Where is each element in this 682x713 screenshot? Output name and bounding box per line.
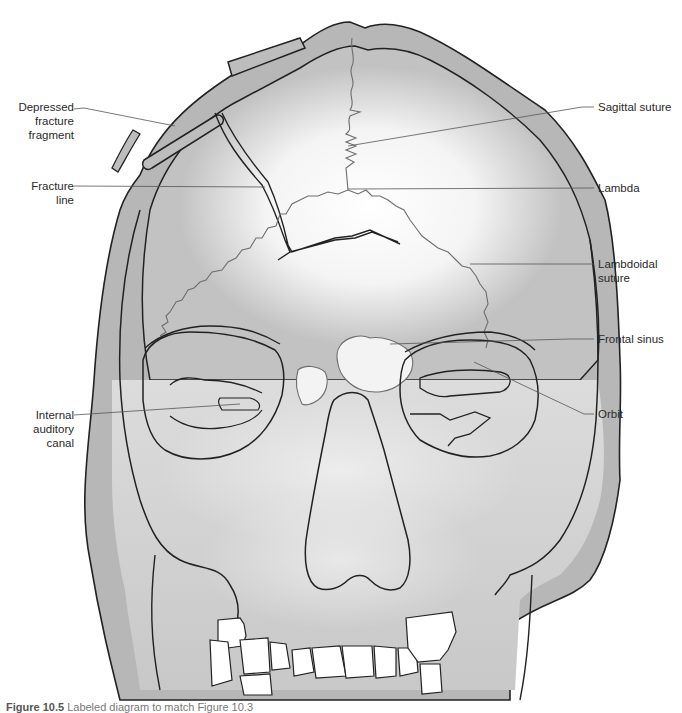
label-fracture-line: Fracture line: [4, 179, 74, 207]
caption-text: Labeled diagram to match Figure 10.3: [67, 701, 253, 713]
label-frontal-sinus: Frontal sinus: [598, 332, 664, 346]
tooth: [342, 646, 374, 678]
skull-bone-fragment-left: [112, 130, 140, 172]
skull-illustration: [0, 0, 682, 713]
tooth: [420, 664, 442, 694]
tooth: [292, 648, 314, 676]
label-orbit: Orbit: [598, 407, 623, 421]
label-lambdoidal-suture: Lambdoidal suture: [598, 257, 657, 285]
label-lambda: Lambda: [598, 181, 640, 195]
label-internal-auditory-canal: Internal auditory canal: [4, 408, 74, 450]
leader-depressed-fracture-fragment: [74, 108, 175, 126]
tooth: [240, 674, 272, 695]
tooth: [210, 640, 232, 686]
tooth: [240, 638, 270, 674]
figure-caption: Figure 10.5 Labeled diagram to match Fig…: [6, 701, 253, 713]
skull-diagram: Depressed fracture fragment Fracture lin…: [0, 0, 682, 713]
tooth: [312, 646, 346, 678]
caption-prefix: Figure 10.5: [6, 701, 64, 713]
label-depressed-fracture-fragment: Depressed fracture fragment: [4, 100, 74, 142]
tooth: [374, 646, 396, 678]
face-highlight: [200, 490, 480, 630]
label-sagittal-suture: Sagittal suture: [598, 100, 672, 114]
